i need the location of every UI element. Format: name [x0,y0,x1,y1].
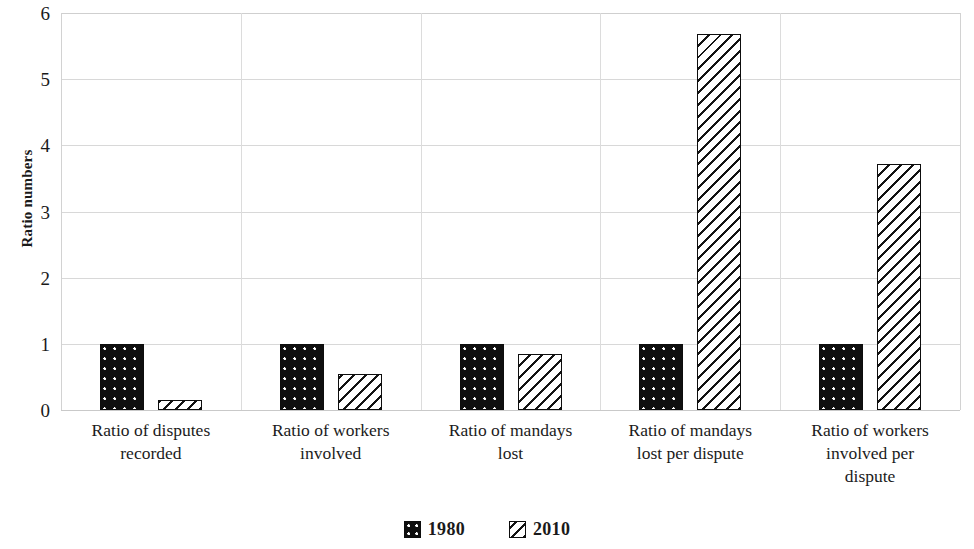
x-axis-label-line: Ratio of disputes [61,419,241,442]
bar-1980-2 [280,344,324,410]
bar-2010-3 [518,354,562,410]
category-separator [780,13,781,410]
legend-item-2010[interactable]: 2010 [509,519,570,540]
y-axis-title: Ratio numbers [19,109,36,289]
category-separator [241,13,242,410]
y-tick-label: 6 [41,4,51,23]
x-axis-label-line: involved per [780,442,960,465]
category-separator [960,13,961,410]
x-axis-label-5: Ratio of workersinvolved perdispute [780,419,960,488]
x-axis-label-line: dispute [780,465,960,488]
x-axis-label-line: Ratio of mandays [421,419,601,442]
y-tick-label: 1 [41,334,51,353]
y-tick-label: 5 [41,70,51,89]
y-tick-label: 0 [41,401,51,420]
y-tick-label: 3 [41,202,51,221]
x-axis-label-4: Ratio of mandayslost per dispute [600,419,780,465]
x-axis-label-line: lost [421,442,601,465]
gridline-y-0 [61,410,960,411]
bar-1980-1 [100,344,144,410]
category-separator [600,13,601,410]
plot-area: 0123456 [61,13,960,410]
bar-2010-2 [338,374,382,410]
gridline-y-3 [61,212,960,213]
x-axis-label-line: Ratio of mandays [600,419,780,442]
x-axis-label-1: Ratio of disputesrecorded [61,419,241,465]
x-axis-label-line: recorded [61,442,241,465]
bar-1980-5 [819,344,863,410]
y-tick-label: 4 [41,136,51,155]
x-axis-label-line: involved [241,442,421,465]
category-separator [421,13,422,410]
bar-1980-4 [639,344,683,410]
gridline-y-2 [61,278,960,279]
y-tick-label: 2 [41,268,51,287]
gridline-y-5 [61,79,960,80]
bar-chart: Ratio numbers 0123456 Ratio of disputesr… [0,0,974,549]
x-axis-label-2: Ratio of workersinvolved [241,419,421,465]
swatch-1980-dotted-icon [404,521,421,538]
bar-2010-5 [877,164,921,410]
swatch-2010-hatched-icon [509,521,526,538]
gridline-y-4 [61,145,960,146]
category-separator [61,13,62,410]
x-axis-category-labels: Ratio of disputesrecordedRatio of worker… [61,419,960,499]
bar-2010-4 [697,34,741,410]
legend-label: 2010 [533,519,570,540]
x-axis-label-line: Ratio of workers [780,419,960,442]
legend-label: 1980 [428,519,465,540]
chart-legend: 19802010 [0,519,974,540]
x-axis-label-line: Ratio of workers [241,419,421,442]
x-axis-label-3: Ratio of mandayslost [421,419,601,465]
legend-item-1980[interactable]: 1980 [404,519,465,540]
bar-2010-1 [158,400,202,410]
gridline-y-6 [61,13,960,14]
bar-1980-3 [460,344,504,410]
x-axis-label-line: lost per dispute [600,442,780,465]
